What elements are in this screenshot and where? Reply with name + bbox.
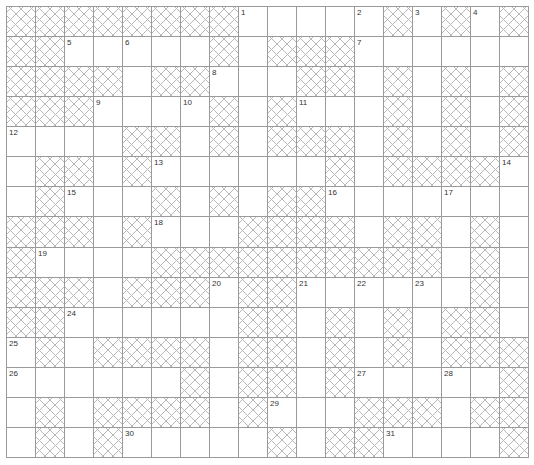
answer-cell[interactable] bbox=[181, 157, 210, 187]
answer-cell[interactable] bbox=[384, 368, 413, 398]
answer-cell[interactable] bbox=[94, 37, 123, 67]
answer-cell[interactable] bbox=[500, 308, 529, 338]
answer-cell[interactable]: 27 bbox=[355, 368, 384, 398]
answer-cell[interactable] bbox=[326, 7, 355, 37]
answer-cell[interactable] bbox=[239, 127, 268, 157]
answer-cell[interactable]: 21 bbox=[297, 278, 326, 308]
answer-cell[interactable]: 28 bbox=[442, 368, 471, 398]
answer-cell[interactable]: 8 bbox=[210, 67, 239, 97]
answer-cell[interactable] bbox=[123, 248, 152, 278]
answer-cell[interactable] bbox=[152, 37, 181, 67]
answer-cell[interactable] bbox=[442, 278, 471, 308]
answer-cell[interactable]: 19 bbox=[36, 248, 65, 278]
answer-cell[interactable] bbox=[94, 248, 123, 278]
answer-cell[interactable] bbox=[355, 217, 384, 247]
answer-cell[interactable] bbox=[384, 278, 413, 308]
answer-cell[interactable]: 2 bbox=[355, 7, 384, 37]
answer-cell[interactable] bbox=[65, 428, 94, 458]
answer-cell[interactable] bbox=[355, 308, 384, 338]
answer-cell[interactable] bbox=[210, 428, 239, 458]
answer-cell[interactable] bbox=[152, 97, 181, 127]
answer-cell[interactable] bbox=[355, 127, 384, 157]
answer-cell[interactable] bbox=[297, 368, 326, 398]
answer-cell[interactable] bbox=[471, 97, 500, 127]
answer-cell[interactable] bbox=[123, 187, 152, 217]
answer-cell[interactable]: 5 bbox=[65, 37, 94, 67]
answer-cell[interactable] bbox=[355, 157, 384, 187]
answer-cell[interactable] bbox=[326, 278, 355, 308]
answer-cell[interactable] bbox=[442, 217, 471, 247]
answer-cell[interactable] bbox=[7, 398, 36, 428]
answer-cell[interactable]: 17 bbox=[442, 187, 471, 217]
answer-cell[interactable] bbox=[210, 398, 239, 428]
answer-cell[interactable] bbox=[65, 338, 94, 368]
answer-cell[interactable] bbox=[413, 67, 442, 97]
answer-cell[interactable] bbox=[181, 187, 210, 217]
answer-cell[interactable] bbox=[210, 308, 239, 338]
answer-cell[interactable] bbox=[123, 67, 152, 97]
answer-cell[interactable]: 10 bbox=[181, 97, 210, 127]
answer-cell[interactable] bbox=[268, 67, 297, 97]
answer-cell[interactable] bbox=[355, 67, 384, 97]
answer-cell[interactable] bbox=[65, 248, 94, 278]
answer-cell[interactable]: 20 bbox=[210, 278, 239, 308]
answer-cell[interactable] bbox=[65, 398, 94, 428]
answer-cell[interactable] bbox=[413, 368, 442, 398]
answer-cell[interactable] bbox=[268, 7, 297, 37]
answer-cell[interactable] bbox=[297, 157, 326, 187]
answer-cell[interactable] bbox=[181, 37, 210, 67]
answer-cell[interactable]: 13 bbox=[152, 157, 181, 187]
answer-cell[interactable] bbox=[94, 278, 123, 308]
answer-cell[interactable] bbox=[94, 187, 123, 217]
answer-cell[interactable] bbox=[152, 428, 181, 458]
answer-cell[interactable] bbox=[471, 428, 500, 458]
answer-cell[interactable] bbox=[94, 308, 123, 338]
answer-cell[interactable]: 3 bbox=[413, 7, 442, 37]
answer-cell[interactable] bbox=[94, 157, 123, 187]
answer-cell[interactable] bbox=[210, 368, 239, 398]
answer-cell[interactable]: 7 bbox=[355, 37, 384, 67]
answer-cell[interactable]: 18 bbox=[152, 217, 181, 247]
answer-cell[interactable] bbox=[500, 187, 529, 217]
answer-cell[interactable] bbox=[384, 37, 413, 67]
answer-cell[interactable] bbox=[239, 67, 268, 97]
answer-cell[interactable] bbox=[297, 7, 326, 37]
answer-cell[interactable] bbox=[210, 338, 239, 368]
answer-cell[interactable] bbox=[355, 338, 384, 368]
answer-cell[interactable] bbox=[239, 157, 268, 187]
answer-cell[interactable] bbox=[181, 308, 210, 338]
answer-cell[interactable]: 15 bbox=[65, 187, 94, 217]
answer-cell[interactable] bbox=[210, 217, 239, 247]
answer-cell[interactable] bbox=[152, 308, 181, 338]
answer-cell[interactable] bbox=[94, 217, 123, 247]
answer-cell[interactable] bbox=[326, 97, 355, 127]
answer-cell[interactable] bbox=[123, 368, 152, 398]
answer-cell[interactable]: 6 bbox=[123, 37, 152, 67]
answer-cell[interactable] bbox=[297, 308, 326, 338]
answer-cell[interactable] bbox=[297, 428, 326, 458]
answer-cell[interactable] bbox=[413, 428, 442, 458]
answer-cell[interactable]: 16 bbox=[326, 187, 355, 217]
answer-cell[interactable] bbox=[210, 157, 239, 187]
answer-cell[interactable] bbox=[442, 248, 471, 278]
answer-cell[interactable]: 29 bbox=[268, 398, 297, 428]
answer-cell[interactable] bbox=[413, 127, 442, 157]
answer-cell[interactable] bbox=[268, 157, 297, 187]
answer-cell[interactable] bbox=[297, 338, 326, 368]
answer-cell[interactable] bbox=[471, 368, 500, 398]
answer-cell[interactable] bbox=[355, 97, 384, 127]
answer-cell[interactable]: 31 bbox=[384, 428, 413, 458]
answer-cell[interactable]: 11 bbox=[297, 97, 326, 127]
answer-cell[interactable]: 12 bbox=[7, 127, 36, 157]
answer-cell[interactable]: 14 bbox=[500, 157, 529, 187]
answer-cell[interactable]: 23 bbox=[413, 278, 442, 308]
answer-cell[interactable] bbox=[7, 187, 36, 217]
answer-cell[interactable] bbox=[152, 368, 181, 398]
answer-cell[interactable]: 26 bbox=[7, 368, 36, 398]
answer-cell[interactable]: 4 bbox=[471, 7, 500, 37]
answer-cell[interactable] bbox=[181, 217, 210, 247]
answer-cell[interactable] bbox=[471, 37, 500, 67]
answer-cell[interactable] bbox=[123, 308, 152, 338]
answer-cell[interactable] bbox=[413, 187, 442, 217]
answer-cell[interactable]: 30 bbox=[123, 428, 152, 458]
